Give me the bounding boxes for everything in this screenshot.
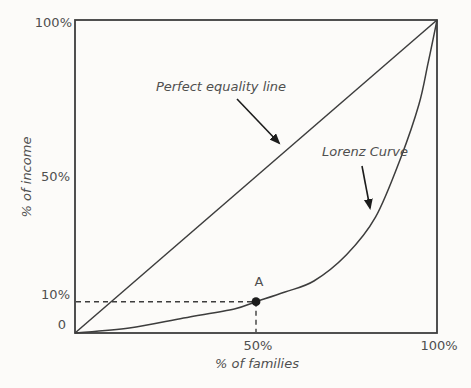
y-tick-0: 0 <box>58 317 66 332</box>
y-tick-50: 50% <box>41 169 70 184</box>
y-tick-10: 10% <box>41 287 70 302</box>
x-tick-100: 100% <box>420 338 457 353</box>
equality-annotation-arrow <box>237 99 279 143</box>
lorenz-annotation-label: Lorenz Curve <box>322 144 408 159</box>
x-axis-label: % of families <box>215 356 299 371</box>
lorenz-annotation-arrow <box>362 166 370 208</box>
lorenz-curve-figure: 100% 50% 10% 0 50% 100% % of families % … <box>0 0 471 388</box>
y-tick-100: 100% <box>35 15 72 30</box>
point-a-marker <box>252 297 261 306</box>
point-a-label: A <box>255 274 264 289</box>
lorenz-curve-chart: 100% 50% 10% 0 50% 100% % of families % … <box>0 0 471 388</box>
x-tick-50: 50% <box>244 338 273 353</box>
equality-annotation-label: Perfect equality line <box>156 79 286 94</box>
y-axis-label: % of income <box>19 137 34 218</box>
